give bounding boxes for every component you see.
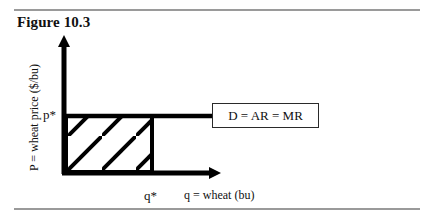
price-tick-label: p* [43,107,56,123]
figure-container: Figure 10.3 P = wheat price ($ [0,0,439,222]
total-revenue-rectangle [66,116,152,172]
demand-curve-callout: D = AR = MR [212,103,319,128]
quantity-tick-label: q* [144,188,157,204]
x-axis-label: q = wheat (bu) [184,188,254,203]
y-axis-label: P = wheat price ($/bu) [27,43,42,193]
bottom-divider-rule [14,208,420,210]
